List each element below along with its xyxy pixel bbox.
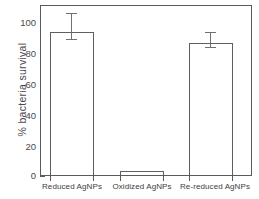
bar-oxidized-agnps — [120, 171, 164, 175]
error-bar-cap-lower-reduced-agnps — [66, 39, 77, 40]
error-bar-stem-reduced-agnps — [71, 14, 72, 40]
x-tick-3 — [120, 176, 121, 181]
bar-re-reduced-agnps — [189, 43, 233, 175]
bar-reduced-agnps — [50, 32, 94, 175]
y-axis-tick-labels: 100 80 60 40 20 0 — [12, 0, 36, 199]
bar-chart-figure: % bacteria survival 100 80 60 40 20 0 — [0, 0, 259, 199]
y-tick-label-100: 100 — [14, 18, 36, 28]
error-bar-cap-upper-re-reduced-agnps — [205, 32, 216, 33]
y-tick-label-60: 60 — [14, 80, 36, 90]
plot-area — [40, 5, 252, 176]
x-tick-5 — [189, 176, 190, 181]
error-bar-cap-upper-reduced-agnps — [66, 13, 77, 14]
y-tick-label-80: 80 — [14, 49, 36, 59]
y-tick-label-20: 20 — [14, 142, 36, 152]
x-axis-label-re-reduced-agnps: Re-reduced AgNPs — [172, 182, 258, 192]
error-bar-stem-re-reduced-agnps — [210, 33, 211, 48]
x-axis-label-oxidized-agnps: Oxidized AgNPs — [106, 182, 178, 192]
x-tick-1 — [50, 176, 51, 181]
x-tick-6 — [232, 176, 233, 181]
x-tick-4 — [163, 176, 164, 181]
error-bar-cap-lower-re-reduced-agnps — [205, 47, 216, 48]
y-tick-label-40: 40 — [14, 111, 36, 121]
x-axis-label-reduced-agnps: Reduced AgNPs — [36, 182, 108, 192]
x-tick-2 — [93, 176, 94, 181]
y-tick-major-0 — [40, 176, 45, 177]
y-tick-label-0: 0 — [14, 171, 36, 181]
